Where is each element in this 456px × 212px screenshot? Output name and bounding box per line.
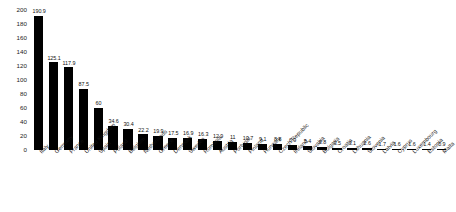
bar-slot: 3.1: [347, 10, 356, 150]
bar-value-label: 190.9: [32, 9, 45, 14]
bar-slot: 8.8: [273, 10, 282, 150]
x-axis-labels: ItalyGermanyFranceUnited KingdomSpainPol…: [31, 151, 449, 212]
bar-slot: 1.6: [407, 10, 416, 150]
y-axis-tick: 100: [16, 77, 27, 83]
bar-value-label: 117.9: [63, 61, 76, 66]
bar-slot: 10.7: [243, 10, 252, 150]
y-axis-tick: 140: [16, 49, 27, 55]
y-axis-tick: 120: [16, 63, 27, 69]
y-axis: 200180160140120100806040200: [0, 0, 30, 160]
bar-slot: 16.9: [183, 10, 192, 150]
y-axis-tick: 80: [20, 91, 27, 97]
y-axis-tick: 0: [23, 147, 27, 153]
bar: [49, 62, 58, 150]
bar-slot: 1.6: [392, 10, 401, 150]
bar-slot: 1.7: [377, 10, 386, 150]
y-axis-tick: 20: [20, 133, 27, 139]
bar-slot: 60: [94, 10, 103, 150]
bar-slot: 190.9: [34, 10, 43, 150]
y-axis-tick: 60: [20, 105, 27, 111]
bar-value-label: 87.5: [79, 82, 89, 87]
bar-slot: 3.8: [317, 10, 326, 150]
bar-slot: 12.9: [213, 10, 222, 150]
bar-slot: 9.1: [258, 10, 267, 150]
y-axis-tick: 160: [16, 35, 27, 41]
bar-slot: 19.9: [153, 10, 162, 150]
bar-value-label: 125.1: [47, 56, 60, 61]
y-axis-tick: 200: [16, 7, 27, 13]
bar-slot: 1.4: [422, 10, 431, 150]
bar: [34, 16, 43, 150]
bar-slot: 6.9: [288, 10, 297, 150]
bar-slot: 30.4: [123, 10, 132, 150]
bar-value-label: 30.4: [123, 122, 133, 127]
bar-value-label: 22.2: [138, 128, 148, 133]
y-axis-tick: 180: [16, 21, 27, 27]
bar-slot: 125.1: [49, 10, 58, 150]
plot-area: 190.9125.1117.987.56034.630.422.219.917.…: [31, 10, 449, 150]
bar-value-label: 60: [96, 101, 102, 106]
bar-slot: 87.5: [79, 10, 88, 150]
bar-slot: 3.5: [332, 10, 341, 150]
bar-slot: 0.9: [437, 10, 446, 150]
y-axis-tick: 40: [20, 119, 27, 125]
bar-slot: 16.3: [198, 10, 207, 150]
bar-slot: 117.9: [64, 10, 73, 150]
bar-slot: 11: [228, 10, 237, 150]
bar-slot: 22.2: [138, 10, 147, 150]
bar-slot: 17.5: [168, 10, 177, 150]
bar-slot: 2.6: [362, 10, 371, 150]
bar-value-label: 17.5: [168, 131, 178, 136]
